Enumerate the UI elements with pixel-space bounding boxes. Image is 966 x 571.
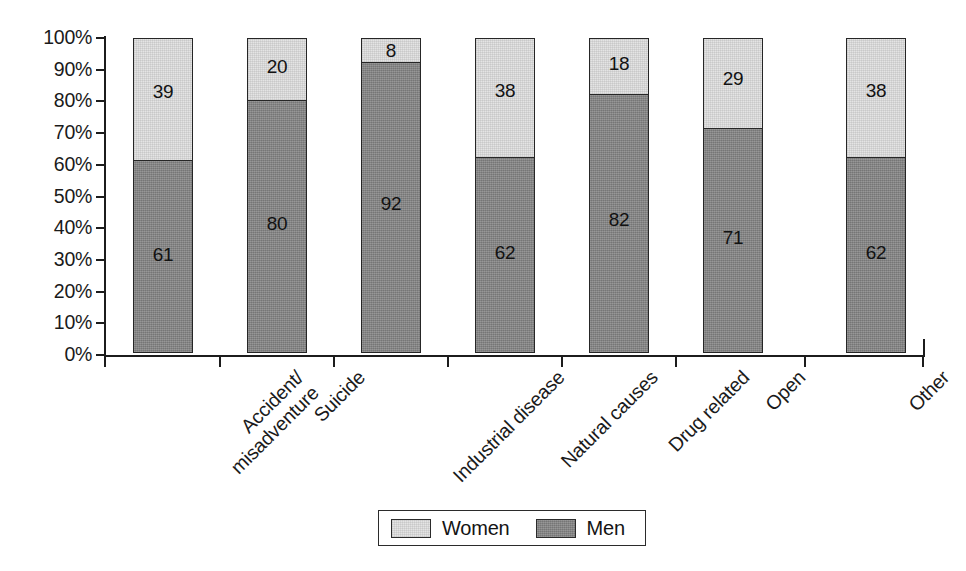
plot-area: 396120808923862188229713862 [105, 38, 923, 355]
y-axis-tick [96, 196, 105, 198]
y-axis-tick-label: 10% [14, 313, 92, 333]
y-axis-tick-label: 70% [14, 123, 92, 143]
bar-segment-men[interactable]: 61 [133, 160, 193, 353]
y-axis-tick-label: 100% [14, 28, 92, 48]
y-axis-tick-label: 60% [14, 155, 92, 175]
bar-group[interactable]: 2971 [703, 38, 763, 355]
bar-value-label: 62 [866, 243, 887, 262]
bar-value-label: 62 [495, 243, 516, 262]
bar-value-label: 38 [866, 81, 887, 100]
bar-segment-women[interactable]: 8 [361, 38, 421, 63]
bar-segment-women[interactable]: 20 [247, 38, 307, 101]
legend-swatch-men [536, 519, 576, 538]
x-axis-category-label: Open [761, 366, 810, 415]
x-axis-tick [922, 356, 924, 367]
bar-value-label: 20 [267, 57, 288, 76]
y-axis-tick-label: 30% [14, 250, 92, 270]
bar-value-label: 82 [609, 210, 630, 229]
category-label-line: Open [761, 366, 810, 415]
x-axis-tick [804, 356, 806, 367]
y-axis-tick [96, 100, 105, 102]
bar-group[interactable]: 2080 [247, 38, 307, 355]
bar-value-label: 18 [609, 54, 630, 73]
bar-segment-men[interactable]: 82 [589, 94, 649, 354]
x-axis-category-label: Natural causes [556, 366, 662, 472]
legend-label: Men [587, 518, 625, 538]
bar-value-label: 29 [723, 69, 744, 88]
bar-value-label: 8 [386, 41, 396, 60]
x-axis-category-label: Accident/misadventure [211, 366, 324, 479]
y-axis-tick [96, 259, 105, 261]
x-axis-category-label: Drug related [664, 366, 754, 456]
y-axis-tick [96, 227, 105, 229]
y-axis-tick [96, 132, 105, 134]
x-axis-tick [447, 356, 449, 367]
y-axis-tick [96, 322, 105, 324]
y-axis-tick-label: 20% [14, 282, 92, 302]
x-axis-tick [104, 356, 106, 367]
bar-value-label: 92 [381, 194, 402, 213]
bar-value-label: 38 [495, 81, 516, 100]
category-label-line: Drug related [664, 366, 754, 456]
y-axis-tick [96, 164, 105, 166]
x-axis-end-tick [923, 339, 925, 357]
y-axis-tick-label: 40% [14, 218, 92, 238]
category-label-line: Industrial disease [448, 366, 568, 486]
chart-legend: WomenMen [378, 510, 646, 546]
bar-segment-women[interactable]: 29 [703, 38, 763, 130]
legend-swatch-women [391, 519, 431, 538]
y-axis-tick [96, 69, 105, 71]
bar-segment-women[interactable]: 38 [846, 38, 906, 158]
bar-value-label: 80 [267, 214, 288, 233]
bar-segment-women[interactable]: 39 [133, 38, 193, 162]
y-axis-tick-label: 90% [14, 60, 92, 80]
bar-segment-men[interactable]: 62 [475, 157, 535, 354]
bar-segment-men[interactable]: 92 [361, 62, 421, 354]
bar-group[interactable]: 3961 [133, 38, 193, 355]
category-label-line: Other [904, 366, 953, 415]
x-axis-line [104, 355, 925, 357]
x-axis-tick [333, 356, 335, 367]
y-axis-tick [96, 37, 105, 39]
bar-value-label: 61 [153, 245, 174, 264]
x-axis-tick [561, 356, 563, 367]
bar-segment-men[interactable]: 62 [846, 157, 906, 354]
legend-item[interactable]: Women [391, 518, 510, 538]
y-axis-tick-label: 50% [14, 187, 92, 207]
bar-value-label: 39 [153, 82, 174, 101]
stacked-bar-chart: 100%90%80%70%60%50%40%30%20%10%0% 396120… [0, 0, 966, 571]
bar-segment-women[interactable]: 18 [589, 38, 649, 95]
y-axis-tick-label: 80% [14, 91, 92, 111]
category-label-line: Natural causes [556, 366, 662, 472]
bar-segment-women[interactable]: 38 [475, 38, 535, 158]
legend-label: Women [442, 518, 510, 538]
bar-value-label: 71 [723, 228, 744, 247]
bar-group[interactable]: 3862 [475, 38, 535, 355]
bar-group[interactable]: 3862 [846, 38, 906, 355]
x-axis-category-label: Industrial disease [448, 366, 568, 486]
y-axis-tick-label: 0% [14, 345, 92, 365]
x-axis-tick [219, 356, 221, 367]
bar-group[interactable]: 1882 [589, 38, 649, 355]
bar-group[interactable]: 892 [361, 38, 421, 355]
bar-segment-men[interactable]: 80 [247, 100, 307, 354]
legend-item[interactable]: Men [536, 518, 625, 538]
y-axis-tick [96, 291, 105, 293]
x-axis-tick [675, 356, 677, 367]
x-axis-category-label: Other [904, 366, 953, 415]
bar-segment-men[interactable]: 71 [703, 128, 763, 353]
